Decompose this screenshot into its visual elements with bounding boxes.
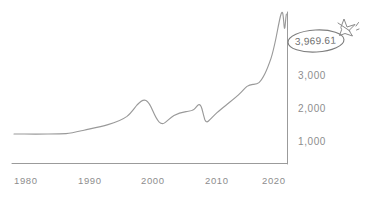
y-tick-label-2000: 2,000 bbox=[298, 103, 326, 114]
sketch-line-chart: 1980 1990 2000 2010 2020 3,000 2,000 1,0… bbox=[0, 0, 365, 204]
y-tick-label-1000: 1,000 bbox=[298, 136, 326, 147]
y-tick-label-3000: 3,000 bbox=[298, 70, 326, 81]
x-tick-label-2010: 2010 bbox=[205, 175, 229, 186]
annotation-value-text: 3,969.61 bbox=[295, 35, 337, 47]
x-tick-label-1980: 1980 bbox=[14, 175, 38, 186]
x-tick-label-2020: 2020 bbox=[262, 175, 286, 186]
x-tick-label-1990: 1990 bbox=[78, 175, 102, 186]
chart-canvas: 1980 1990 2000 2010 2020 3,000 2,000 1,0… bbox=[0, 0, 365, 204]
series-line-index bbox=[14, 12, 286, 134]
x-tick-label-2000: 2000 bbox=[141, 175, 165, 186]
star-doodle-icon bbox=[338, 19, 359, 36]
